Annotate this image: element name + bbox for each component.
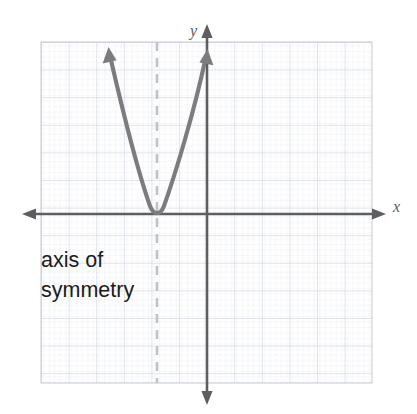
y-axis-label: y [188,22,198,40]
graph-figure: x y axis of symmetry [0,0,417,414]
axis-of-symmetry-label-line1: axis of [41,248,103,272]
x-axis-label: x [392,198,400,215]
coordinate-plane-svg: x y axis of symmetry [0,0,417,414]
axis-of-symmetry-label-line2: symmetry [41,278,134,302]
